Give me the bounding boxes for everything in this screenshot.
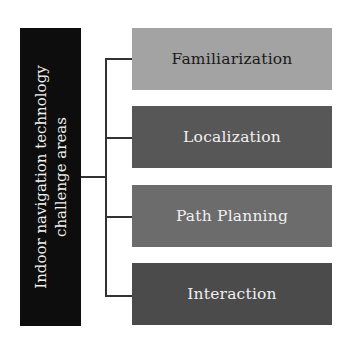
area-familiarization: Familiarization (132, 28, 332, 90)
connector-branch-3 (105, 216, 132, 218)
area-path-planning: Path Planning (132, 185, 332, 247)
connector-trunk (105, 59, 107, 296)
connector-branch-1 (105, 58, 132, 60)
area-label: Interaction (187, 285, 277, 303)
connector-root (81, 176, 106, 178)
connector-branch-2 (105, 137, 132, 139)
area-label: Path Planning (176, 207, 288, 225)
connector-branch-4 (105, 295, 132, 297)
area-label: Localization (183, 128, 281, 146)
area-label: Familiarization (171, 50, 292, 68)
root-node-label: Indoor navigation technology challenge a… (31, 32, 71, 322)
area-localization: Localization (132, 106, 332, 168)
root-node: Indoor navigation technology challenge a… (20, 28, 81, 326)
area-interaction: Interaction (132, 263, 332, 325)
